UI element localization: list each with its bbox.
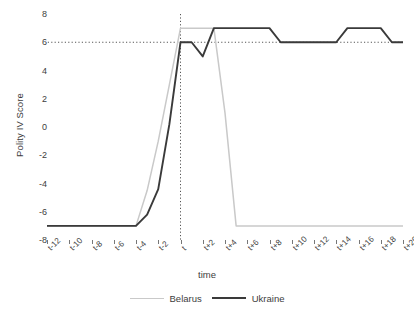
y-tick-label: -8 <box>5 234 47 246</box>
legend-item-ukraine: Ukraine <box>212 293 285 304</box>
plot-area <box>47 14 403 240</box>
x-tick-label: t+2 <box>202 238 217 253</box>
x-tick-label: t+6 <box>246 238 261 253</box>
x-tick-label: t <box>180 244 188 252</box>
x-tick-label: t+8 <box>269 238 284 253</box>
x-axis-title: time <box>0 269 414 280</box>
y-axis-tick-group: 86420-2-4-6-8 <box>0 14 47 240</box>
y-tick-label: -6 <box>5 206 47 218</box>
y-tick-label: 8 <box>5 8 47 20</box>
y-tick-label: 0 <box>5 121 47 133</box>
belarus-line-swatch <box>130 298 164 299</box>
y-tick-label: 2 <box>5 93 47 105</box>
chart-legend: Belarus Ukraine <box>0 289 414 307</box>
x-tick-label: t+4 <box>224 238 239 253</box>
ukraine-data-line <box>47 28 403 226</box>
chart-svg <box>47 14 403 240</box>
x-tick-label: t+20 <box>402 235 414 253</box>
legend-item-belarus: Belarus <box>130 293 202 304</box>
belarus-data-line <box>47 28 403 226</box>
y-tick-label: -4 <box>5 178 47 190</box>
y-tick-label: 6 <box>5 36 47 48</box>
polity-iv-score-chart: Polity IV Score 86420-2-4-6-8 t-12t-10t-… <box>0 0 414 312</box>
legend-label-belarus: Belarus <box>170 293 202 304</box>
y-tick-label: -2 <box>5 149 47 161</box>
y-tick-label: 4 <box>5 65 47 77</box>
ukraine-line-swatch <box>212 297 246 299</box>
legend-label-ukraine: Ukraine <box>252 293 285 304</box>
